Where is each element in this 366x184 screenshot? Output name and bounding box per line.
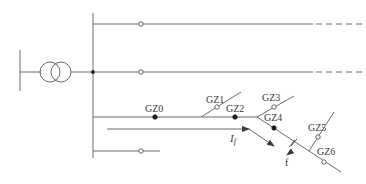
feeder-1	[93, 22, 362, 26]
fault-current-path: If	[107, 129, 274, 146]
transformer-icon	[40, 62, 71, 82]
switch-gz4-closed-icon	[272, 126, 276, 130]
fault-label: f	[285, 157, 289, 168]
feeder-4-breaker-icon	[139, 149, 143, 153]
fault-point: f	[285, 139, 297, 168]
switch-gz1-open-icon	[215, 105, 219, 109]
gz4-gz6-branch-line	[257, 117, 341, 172]
label-gz3: GZ3	[262, 92, 280, 103]
switch-gz0-closed-icon	[153, 115, 157, 119]
label-gz2: GZ2	[226, 103, 244, 114]
label-gz5: GZ5	[308, 122, 326, 133]
label-gz6: GZ6	[317, 146, 335, 157]
fault-pointer-arrow-icon	[287, 152, 291, 155]
switch-gz5-open-icon	[316, 135, 320, 139]
fault-current-label: If	[229, 132, 238, 146]
label-gz1: GZ1	[206, 94, 224, 105]
switch-gz2-closed-icon	[233, 115, 237, 119]
fault-current-arrow-branch-icon	[249, 129, 274, 146]
feeder-1-breaker-icon	[139, 22, 143, 26]
switch-gz3-open-icon	[272, 105, 276, 109]
switch-gz6-open-icon	[322, 160, 326, 164]
source-group	[20, 50, 93, 91]
label-gz0: GZ0	[145, 103, 163, 114]
feeder-2-breaker-icon	[139, 70, 143, 74]
distribution-network-diagram: GZ0 GZ1 GZ2 GZ3 GZ4 GZ5 GZ6 If f	[0, 0, 366, 184]
feeder-2	[93, 70, 362, 74]
feeder-3-faulted: GZ0 GZ1 GZ2 GZ3 GZ4 GZ5 GZ6	[93, 92, 341, 172]
feeder-4	[93, 149, 160, 153]
label-gz4: GZ4	[264, 112, 282, 123]
